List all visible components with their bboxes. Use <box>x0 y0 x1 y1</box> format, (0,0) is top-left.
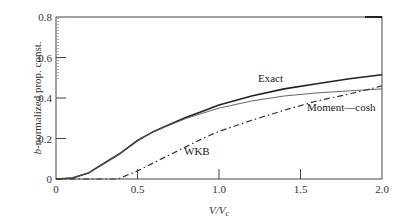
y-tick-label: 0 <box>47 173 53 185</box>
series-layer <box>56 75 382 179</box>
series-wkb <box>56 86 382 179</box>
x-axis-label-main: V/V <box>209 204 227 216</box>
x-axis-label-sub: c <box>225 209 229 218</box>
chart: 00.20.40.60.8 00.51.01.52.0 b-normalized… <box>0 0 408 220</box>
y-axis-label-rest: -normalized prop. const. <box>31 41 43 149</box>
x-axis-label: V/Vc <box>209 204 230 218</box>
x-tick-label: 0.5 <box>131 183 145 195</box>
y-axis-label: b-normalized prop. const. <box>31 41 43 154</box>
wkb-label: WKB <box>184 145 210 157</box>
x-tick-label: 1.0 <box>212 183 226 195</box>
moment-cosh-label: Moment—cosh <box>307 101 376 113</box>
series-exact <box>56 75 382 179</box>
x-tick-label: 0 <box>53 183 59 195</box>
x-tick-label: 2.0 <box>375 183 389 195</box>
x-tick-label: 1.5 <box>294 183 308 195</box>
x-axis-ticks: 00.51.01.52.0 <box>53 169 389 195</box>
y-tick-label: 0.8 <box>38 11 52 23</box>
exact-label: Exact <box>258 72 283 84</box>
